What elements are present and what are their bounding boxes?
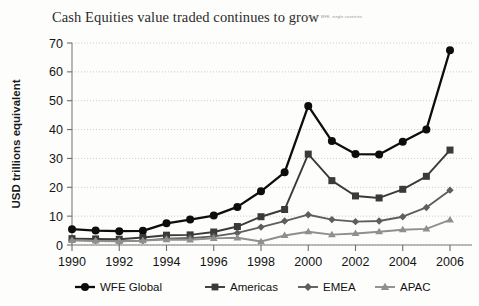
data-point [163,219,171,227]
x-tick-label: 2000 [294,255,322,269]
data-point [210,212,218,220]
data-point [281,206,288,213]
data-point [376,194,383,201]
series-wfe-global [68,46,454,235]
data-point [328,216,335,223]
data-point [257,187,265,195]
data-point [68,225,76,233]
data-point [305,211,312,218]
legend-label: APAC [400,281,430,293]
data-point [399,138,407,146]
data-point [257,223,264,230]
y-tick-label: 60 [49,65,63,79]
data-point [375,217,382,224]
data-point [233,203,241,211]
y-axis-label: USD trillions equivalent [10,79,22,208]
data-point [281,217,288,224]
y-axis [67,43,72,245]
legend-marker-diamond-icon [304,283,312,291]
data-point [92,227,100,235]
data-point [399,186,406,193]
y-tick-label: 40 [49,123,63,137]
data-point [304,102,312,110]
data-point [447,147,454,154]
legend-item-emea[interactable]: EMEA [298,281,356,293]
data-point [352,150,360,158]
data-point [328,177,335,184]
legend-item-americas[interactable]: Americas [205,281,278,293]
legend-item-wfe-global[interactable]: WFE Global [75,281,162,293]
data-point [281,168,289,176]
y-tick-label: 30 [49,152,63,166]
data-point [422,126,430,134]
data-point [186,216,194,224]
data-point [375,150,383,158]
data-point [352,218,359,225]
legend-label: EMEA [323,281,356,293]
x-tick-label: 1998 [247,255,275,269]
data-point [305,151,312,158]
y-tick-label: 0 [56,239,63,253]
x-tick-label: 2004 [389,255,417,269]
legend-marker-circle-icon [81,283,89,291]
y-axis-title: USD trillions equivalent [10,79,22,208]
data-point [352,192,359,199]
line-chart: USD trillions equivalent 010203040506070… [0,0,479,306]
y-tick-label: 10 [49,210,63,224]
legend-label: Americas [230,281,278,293]
chart-legend: WFE GlobalAmericasEMEAAPAC [75,281,430,293]
y-tick-label: 70 [49,37,63,51]
y-tick-label: 20 [49,181,63,195]
data-point [446,216,454,223]
legend-item-apac[interactable]: APAC [375,281,430,293]
x-axis [72,245,472,251]
x-tick-label: 1996 [200,255,228,269]
x-tick-label: 1994 [153,255,181,269]
gridlines [72,43,472,245]
x-tick-labels: 199019921994199619982000200220042006 [58,255,464,269]
x-tick-label: 2002 [342,255,370,269]
data-point [234,223,241,230]
y-tick-label: 50 [49,94,63,108]
legend-label: WFE Global [100,281,162,293]
legend-marker-square-icon [212,284,219,291]
y-tick-labels: 010203040506070 [49,37,63,253]
data-point [328,137,336,145]
data-point [115,227,123,235]
data-point [399,213,406,220]
x-tick-label: 1990 [58,255,86,269]
x-tick-label: 1992 [105,255,133,269]
data-point [258,213,265,220]
data-point [304,228,312,235]
data-point [423,173,430,180]
x-tick-label: 2006 [436,255,464,269]
data-point [446,46,454,54]
data-series-group [68,46,454,245]
data-point [139,227,147,235]
